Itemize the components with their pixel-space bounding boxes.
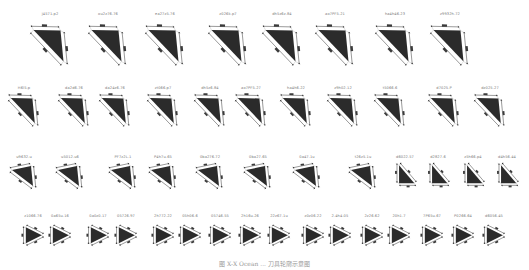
profile-label: 05746.55 [211, 214, 229, 218]
triangle-profile [327, 93, 358, 127]
triangle-profile [10, 162, 38, 189]
profile-label: z9932h.72 [440, 12, 460, 16]
profile-label: 7P65u.67 [423, 214, 441, 218]
triangle-profile [497, 162, 519, 187]
profile-label: d2827.6 [430, 155, 446, 159]
triangle-profile [474, 93, 505, 127]
triangle-profile [395, 162, 417, 187]
triangle-profile [280, 93, 311, 127]
triangle-profile [48, 224, 70, 246]
profile-label: 05726.97 [117, 214, 135, 218]
triangle-profile [293, 162, 321, 189]
profile-label: 22z67.1u [270, 214, 288, 218]
profile-label: 0a47.1u [299, 155, 314, 159]
profile-label: d6056.45 [485, 214, 503, 218]
profile-label: 2.4h4.05 [332, 214, 349, 218]
profile-label: da2d6.76 [65, 86, 83, 90]
profile-label: d4h56.44 [498, 155, 516, 159]
profile-label: z026k.p7 [219, 12, 236, 16]
profile-label: z5h66.p4 [464, 155, 482, 159]
profile-label: j4571.p2 [42, 12, 59, 16]
profile-label: 2h772.22 [154, 214, 172, 218]
profile-label: ea27z5.76 [155, 12, 175, 16]
profile-label: d6022.57 [396, 155, 414, 159]
profile-label: 0ba27.65 [249, 155, 267, 159]
profile-label: P4h7u.65 [154, 155, 172, 159]
triangle-profile [451, 224, 473, 246]
triangle-profile [208, 224, 230, 246]
triangle-profile [428, 93, 459, 127]
triangle-profile [315, 24, 354, 66]
profile-label: 0ba276.72 [200, 155, 220, 159]
triangle-profile [375, 24, 414, 66]
triangle-profile [360, 224, 382, 246]
triangle-profile [267, 224, 289, 246]
profile-label: t26z5.1u [355, 155, 372, 159]
profile-label: PF7z2L.1 [115, 155, 132, 159]
triangle-profile [262, 24, 301, 66]
profile-label: ha4h6.22 [287, 86, 305, 90]
profile-label: 05h06.6 [182, 214, 198, 218]
triangle-profile [149, 162, 177, 189]
profile-label: ou2z76.76 [98, 12, 118, 16]
profile-label: dh5z6z.84 [272, 12, 292, 16]
triangle-profile [99, 93, 130, 127]
profile-label: 20h1.7 [392, 214, 405, 218]
triangle-profile [238, 224, 260, 246]
triangle-profile [208, 24, 247, 66]
triangle-profile [301, 224, 323, 246]
triangle-profile [482, 224, 504, 246]
triangle-profile [374, 93, 405, 127]
triangle-profile [145, 24, 184, 66]
profile-label: da24z6.76 [105, 86, 125, 90]
profile-label: z1066.76 [24, 214, 42, 218]
triangle-profile [196, 162, 224, 189]
profile-label: 0a0z0.17 [89, 214, 106, 218]
triangle-profile [151, 224, 173, 246]
triangle-profile [194, 93, 225, 127]
profile-label: 2z26.62 [364, 214, 379, 218]
triangle-profile [21, 224, 43, 246]
triangle-profile [235, 93, 266, 127]
profile-label: dz025.27 [481, 86, 499, 90]
profile-label: 2h16u.26 [241, 214, 259, 218]
triangle-profile [56, 162, 84, 189]
profile-label: H6l5.p [18, 86, 30, 90]
profile-label: zt066.p7 [155, 86, 172, 90]
profile-label: u5012.u6 [61, 155, 79, 159]
triangle-profile [387, 224, 409, 246]
profile-label: dh5z6.84 [201, 86, 219, 90]
profile-label: ao7PF5.21 [325, 12, 345, 16]
triangle-profile [420, 224, 442, 246]
profile-label: ha4h46.23 [385, 12, 405, 16]
triangle-profile [88, 24, 127, 66]
triangle-profile [428, 162, 450, 187]
triangle-profile [349, 162, 377, 189]
profile-label: z9h02.12 [334, 86, 352, 90]
triangle-profile [147, 93, 178, 127]
profile-label: t5066.6 [383, 86, 398, 90]
profile-label: u9632.u [16, 155, 32, 159]
triangle-profile [58, 93, 89, 127]
profile-label: d7025.P [436, 86, 451, 90]
triangle-profile [109, 162, 137, 189]
profile-label: P0266.64 [454, 214, 472, 218]
triangle-profile [463, 162, 485, 187]
triangle-profile [86, 224, 108, 246]
triangle-profile [114, 224, 136, 246]
triangle-profile [430, 24, 469, 66]
triangle-profile [178, 224, 200, 246]
profile-label: z0z06.22 [304, 214, 321, 218]
triangle-profile [8, 93, 39, 127]
triangle-profile [30, 24, 69, 66]
profile-label: ao7PF5.27 [241, 86, 261, 90]
figure-caption: 图 X-X Ocean ... 刀具轮廓示意图 [0, 259, 529, 268]
triangle-profile [328, 224, 350, 246]
profile-label: 0a65u.16 [51, 214, 69, 218]
triangle-profile [244, 162, 272, 189]
